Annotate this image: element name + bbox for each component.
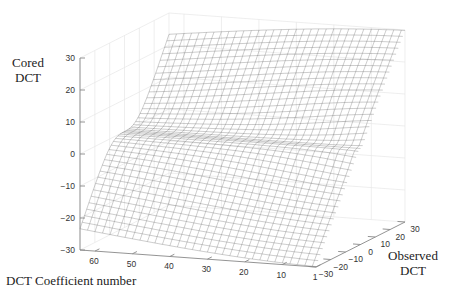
svg-text:10: 10 — [66, 117, 76, 127]
svg-text:30: 30 — [66, 53, 76, 63]
y-axis-title: Observed DCT — [378, 248, 448, 278]
svg-text:−10: −10 — [61, 181, 76, 191]
x-axis-title: DCT Coefficient number — [6, 273, 136, 288]
svg-text:0: 0 — [70, 149, 75, 159]
svg-text:0: 0 — [368, 247, 373, 257]
svg-text:−30: −30 — [319, 269, 334, 279]
svg-text:60: 60 — [89, 256, 99, 266]
back-grid — [80, 13, 405, 250]
svg-text:10: 10 — [277, 270, 287, 280]
wireframe-surface — [80, 29, 405, 267]
svg-text:−20: −20 — [334, 262, 349, 272]
svg-text:20: 20 — [239, 267, 249, 277]
svg-text:−10: −10 — [348, 254, 363, 264]
tick-labels: 3020100−10−20−306050403020101−30−20−1001… — [61, 53, 420, 282]
axes — [80, 58, 405, 267]
svg-text:40: 40 — [164, 261, 174, 271]
svg-text:1: 1 — [313, 272, 318, 282]
z-axis-title-line1: Cored — [4, 55, 52, 70]
surface-plot: 3020100−10−20−306050403020101−30−20−1001… — [0, 0, 454, 294]
svg-text:30: 30 — [410, 224, 420, 234]
svg-text:50: 50 — [127, 259, 137, 269]
svg-text:−20: −20 — [61, 213, 76, 223]
svg-text:−30: −30 — [61, 245, 76, 255]
svg-text:30: 30 — [202, 264, 212, 274]
svg-text:20: 20 — [395, 232, 405, 242]
z-axis-title-line2: DCT — [4, 70, 52, 85]
svg-text:20: 20 — [66, 85, 76, 95]
z-axis-title: Cored DCT — [4, 55, 52, 85]
y-axis-title-line2: DCT — [378, 263, 448, 278]
y-axis-title-line1: Observed — [378, 248, 448, 263]
